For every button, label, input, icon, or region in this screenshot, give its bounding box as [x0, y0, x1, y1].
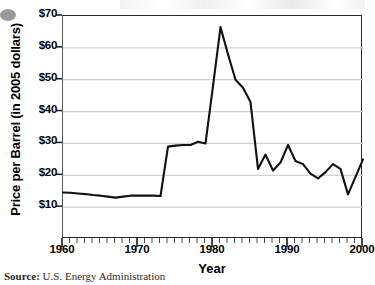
y-tick-label: $30 — [13, 134, 57, 146]
y-tick-label: $10 — [13, 198, 57, 210]
y-tick-label: $20 — [13, 166, 57, 178]
source-note: Source: U.S. Energy Administration — [4, 270, 165, 285]
axis-ticks — [62, 15, 362, 255]
y-tick-label: $60 — [13, 39, 57, 51]
y-tick-label: $40 — [13, 103, 57, 115]
scan-artifact-band — [120, 0, 365, 9]
x-tick-label: 2000 — [339, 243, 375, 255]
y-tick-label: $50 — [13, 71, 57, 83]
oil-price-chart-figure: Price per Barrel (in 2005 dollars) $70$6… — [0, 0, 375, 285]
source-text: U.S. Energy Administration — [43, 270, 166, 282]
x-tick-label: 1970 — [114, 243, 160, 255]
source-prefix: Source: — [4, 270, 40, 282]
x-tick-label: 1980 — [189, 243, 235, 255]
x-tick-label: 1990 — [264, 243, 310, 255]
x-tick-label: 1960 — [39, 243, 85, 255]
y-tick-label: $70 — [13, 7, 57, 19]
